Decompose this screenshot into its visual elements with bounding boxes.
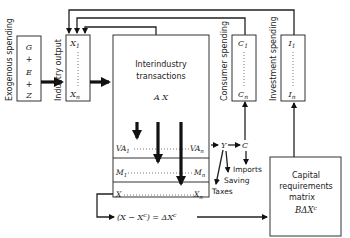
industry-output-label: Industry output <box>54 39 63 101</box>
feedback-lines <box>69 10 294 35</box>
svg-text:matrix: matrix <box>289 193 315 202</box>
svg-text:Capital: Capital <box>292 171 320 180</box>
svg-text:Saving: Saving <box>224 176 250 185</box>
capital-requirements-box: Capital requirements matrix BΔXc <box>270 157 341 236</box>
delta-flow: (X − Xc) = ΔXc <box>97 194 267 222</box>
industry-output-box: Industry output X1 Xn <box>54 35 90 101</box>
svg-text:(X − Xc) = ΔXc: (X − Xc) = ΔXc <box>117 211 177 222</box>
svg-text:Taxes: Taxes <box>211 187 233 196</box>
consumer-spending-box: Consumer spending C1 Cn <box>220 21 256 101</box>
svg-text:Imports: Imports <box>233 165 262 174</box>
investment-label: Investment spending <box>269 16 278 101</box>
svg-text:Z: Z <box>25 91 32 100</box>
svg-text:Y: Y <box>221 141 227 150</box>
svg-text:X: X <box>115 190 122 199</box>
svg-text:A X: A X <box>153 93 168 102</box>
input-output-diagram: Exogenous spending G + E + Z Industry ou… <box>0 0 350 238</box>
svg-text:+: + <box>26 55 33 64</box>
exogenous-spending-box: Exogenous spending G + E + Z <box>5 18 41 101</box>
svg-text:Interindustry: Interindustry <box>135 60 187 69</box>
svg-text:E: E <box>25 68 32 77</box>
exogenous-label: Exogenous spending <box>5 18 14 101</box>
svg-text:C: C <box>242 141 248 150</box>
svg-text:+: + <box>26 80 33 89</box>
interindustry-box: Interindustry transactions A X VA1 VAn M… <box>113 35 209 200</box>
consumer-label: Consumer spending <box>220 21 229 101</box>
svg-text:G: G <box>26 43 33 52</box>
investment-spending-box: Investment spending I1 In <box>269 16 305 101</box>
income-flows: Y C Imports Saving Taxes <box>211 102 262 196</box>
svg-text:requirements: requirements <box>279 182 333 191</box>
svg-text:transactions: transactions <box>136 72 185 81</box>
